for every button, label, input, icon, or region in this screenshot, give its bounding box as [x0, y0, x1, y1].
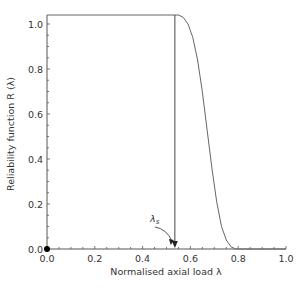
y-tick-label: 0.4 [28, 154, 43, 165]
x-tick-label: 0.0 [39, 253, 54, 264]
x-tick-label: 0.6 [183, 253, 198, 264]
x-tick-label: 1.0 [278, 253, 293, 264]
origin-marker [44, 246, 50, 252]
lambda-s-label: λs [149, 213, 160, 226]
y-tick-label: 0.8 [28, 64, 43, 75]
reliability-curve [47, 15, 286, 249]
y-axis-title: Reliability function R (λ) [5, 77, 16, 191]
y-tick-label: 0.6 [28, 109, 43, 120]
y-tick-label: 1.0 [28, 19, 43, 30]
y-tick-label: 0.2 [28, 199, 43, 210]
plot-area [44, 15, 286, 252]
axes [47, 15, 286, 249]
reliability-chart: 0.00.20.40.60.81.00.00.20.40.60.81.0 Nor… [0, 0, 306, 290]
arrow-down-icon [172, 241, 178, 248]
x-tick-label: 0.4 [135, 253, 150, 264]
y-tick-label: 0.0 [28, 244, 43, 255]
x-axis-title: Normalised axial load λ [110, 266, 222, 277]
ticks: 0.00.20.40.60.81.00.00.20.40.60.81.0 [28, 19, 294, 265]
label-pointer [155, 227, 172, 241]
x-tick-label: 0.2 [87, 253, 102, 264]
x-tick-label: 0.8 [231, 253, 246, 264]
